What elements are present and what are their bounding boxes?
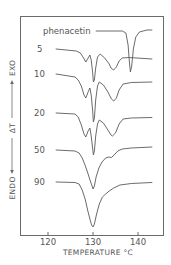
curve-5 (56, 49, 152, 82)
x-tick-label: 120 (40, 237, 56, 247)
x-tick-label: 130 (85, 237, 101, 247)
label-5: 5 (37, 44, 42, 54)
x-axis-title: TEMPERATURE °C (62, 248, 133, 257)
label-phenacetin: phenacetin (43, 26, 91, 36)
label-90: 90 (34, 177, 45, 187)
curves-group (56, 30, 152, 227)
dta-chart: phenacetin 5 10 20 50 90 120 130 140 TEM… (0, 0, 171, 265)
curve-10 (56, 74, 152, 122)
curve-90 (56, 182, 152, 227)
y-axis-title: ENDO ΔT EXO (8, 60, 17, 200)
x-axis-ticks: 120 130 140 (40, 232, 146, 247)
y-axis-endo-label: ENDO (8, 176, 17, 199)
curve-labels-group: phenacetin 5 10 20 50 90 (34, 26, 91, 187)
curve-20 (56, 113, 152, 155)
y-axis-delta-label: ΔT (8, 123, 17, 133)
label-20: 20 (34, 108, 45, 118)
endo-arrow-head-icon (10, 170, 14, 174)
label-50: 50 (34, 145, 45, 155)
y-axis-exo-label: EXO (8, 60, 17, 76)
exo-arrow-head-icon (10, 80, 14, 84)
label-10: 10 (34, 69, 45, 79)
curve-phenacetin (96, 30, 152, 72)
x-tick-label: 140 (130, 237, 146, 247)
